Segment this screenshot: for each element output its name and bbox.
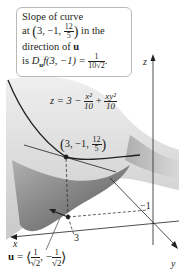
callout-is: is [22,55,32,66]
callout-func: f(3, −1) = [43,55,88,66]
point-label-y: −1 [75,138,86,149]
direction-vector-definition: u = ⟨1√2, −1√2⟩ [8,247,66,268]
callout-point-y: −1 [47,25,58,36]
callout-period: . [105,55,108,66]
drop-line-y [68,210,148,217]
callout-result: 110√2 [88,53,104,70]
equation-lhs: z = 3 − [50,95,84,106]
surface-point [64,155,69,160]
y-axis-label: y [171,258,175,269]
x-tick-label: 3 [74,232,79,243]
callout-in-the: in the [78,25,104,36]
y-tick-label: −1 [140,200,151,211]
point-label-x: 3 [65,138,70,149]
y-axis [110,178,176,246]
callout-at: at [22,25,32,36]
callout-point-z: 125 [64,23,74,40]
callout-vector-u: u [73,41,79,52]
callout-point-x: 3 [37,25,42,36]
point-label-z: 125 [92,136,102,153]
equation-term1: x²10 [84,92,93,111]
z-axis-label: z [143,56,147,67]
callout-line-1: Slope of curve [22,10,131,23]
callout-line-3: direction of u [22,40,131,53]
callout-direction-text: direction of [22,41,73,52]
vector-equals: = [14,250,26,262]
equation-term2: xy²10 [104,92,117,111]
point-label: (3, −1, 125) [60,136,106,153]
callout-line-2: at (3, −1, 125) in the [22,23,131,40]
slope-callout: Slope of curve at (3, −1, 125) in the di… [16,7,132,77]
equation-plus: + [93,95,104,106]
z-axis-arrow [151,54,156,61]
surface-equation: z = 3 − x²10 + xy²10 [50,92,117,111]
vector-component-1: 1√2 [31,247,40,268]
callout-line-4: is Duf(3, −1) = 110√2. [22,53,131,72]
